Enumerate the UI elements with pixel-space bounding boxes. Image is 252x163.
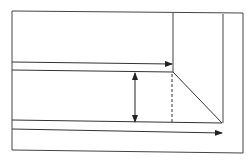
background <box>0 0 252 163</box>
flow-diagram <box>0 0 252 163</box>
